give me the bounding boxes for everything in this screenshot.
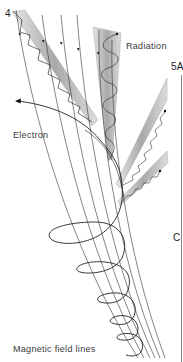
synchrotron-diagram <box>0 0 183 362</box>
label-magnetic-field-lines: Magnetic field lines <box>13 344 96 354</box>
label-radiation: Radiation <box>126 41 167 51</box>
label-electron: Electron <box>13 130 48 140</box>
panel-marker-4: 4 <box>5 8 11 19</box>
electron-arrow-head <box>15 99 21 104</box>
radiation-beam-4 <box>118 151 168 206</box>
radiation-beam-2 <box>93 27 121 160</box>
panel-marker-5a: 5A <box>171 61 183 72</box>
panel-border-line <box>181 75 182 362</box>
radiation-beam-1 <box>12 10 98 126</box>
panel-marker-c: C <box>173 232 181 243</box>
